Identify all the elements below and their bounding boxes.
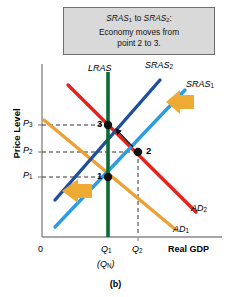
x-tick-label-q2: Q2: [132, 244, 143, 254]
y-tick-label-p1: P1: [23, 170, 33, 180]
x-axis-title: Real GDP: [168, 244, 209, 254]
curve-label-sras2: SRAS2: [145, 60, 173, 70]
curve-label-ad1: AD1: [173, 224, 189, 234]
y-tick-label-p2: P2: [23, 145, 33, 155]
curve-label-lras: LRAS: [88, 63, 112, 73]
equilibrium-point-3: [104, 121, 112, 129]
point-label-2: 2: [146, 145, 151, 156]
curve-label-sras1: SRAS1: [186, 79, 214, 89]
equilibrium-point-2: [134, 148, 142, 156]
x-origin-label: 0: [38, 244, 43, 254]
x-tick-label-qn: (QN): [97, 259, 115, 269]
curve-sras1: [55, 90, 185, 227]
y-tick-label-p3: P3: [23, 118, 33, 128]
sras-shift-arrow: [166, 90, 194, 114]
figure-caption: (b): [0, 279, 231, 289]
callout-box: SRAS1 to SRAS2: Economy moves from point…: [63, 7, 215, 55]
point-label-3: 3: [97, 118, 102, 129]
point-2-to-3-arrow: [116, 129, 133, 147]
callout-line-1: SRAS1 to SRAS2:: [106, 13, 172, 26]
callout-line-2: Economy moves from: [99, 27, 179, 38]
curve-label-ad2: AD2: [191, 203, 207, 213]
ad-shift-arrow: [62, 179, 92, 203]
figure-panel-b: SRAS1 to SRAS2: Economy moves from point…: [0, 0, 231, 297]
callout-line-3: point 2 to 3.: [117, 38, 160, 49]
equilibrium-point-1: [104, 173, 112, 181]
x-tick-label-q1: Q1: [101, 244, 112, 254]
point-label-1: 1: [97, 170, 102, 181]
y-axis-title: Price Level: [11, 97, 22, 171]
